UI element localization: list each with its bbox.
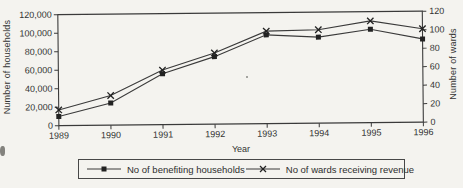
svg-text:1990: 1990 — [101, 130, 121, 140]
plot-area: 020,00040,00060,00080,000100,000120,0000… — [0, 0, 463, 158]
scan-speck — [246, 76, 248, 78]
svg-text:80,000: 80,000 — [25, 47, 53, 57]
svg-text:1996: 1996 — [413, 127, 433, 137]
svg-text:40,000: 40,000 — [25, 84, 53, 94]
svg-text:20,000: 20,000 — [25, 102, 53, 112]
svg-text:1994: 1994 — [309, 128, 329, 138]
svg-text:1992: 1992 — [205, 129, 225, 139]
svg-text:1989: 1989 — [49, 131, 69, 141]
legend-item-wards: No of wards receiving revenue — [245, 164, 414, 175]
svg-text:40: 40 — [430, 80, 440, 90]
svg-text:100: 100 — [429, 24, 444, 34]
svg-text:1991: 1991 — [153, 130, 173, 140]
left-axis-title: Number of households — [2, 20, 12, 115]
legend-label-wards: No of wards receiving revenue — [286, 164, 414, 175]
x-marker-icon — [245, 164, 281, 174]
right-axis-title: Number of wards — [448, 28, 458, 100]
svg-text:1995: 1995 — [361, 128, 381, 138]
chart-legend: No of benefiting households No of wards … — [78, 159, 405, 179]
x-axis-title: Year — [232, 144, 250, 154]
svg-text:20: 20 — [430, 98, 440, 108]
legend-label-households: No of benefiting households — [127, 164, 245, 175]
svg-text:60: 60 — [430, 61, 440, 71]
scan-artifact — [0, 146, 5, 156]
filled-square-marker-icon — [86, 164, 122, 174]
chart-figure: 020,00040,00060,00080,000100,000120,0000… — [0, 0, 463, 188]
svg-text:100,000: 100,000 — [19, 28, 52, 38]
svg-text:80: 80 — [430, 43, 440, 53]
svg-text:0: 0 — [48, 121, 53, 131]
svg-text:120: 120 — [429, 6, 444, 16]
legend-item-households: No of benefiting households — [86, 164, 245, 175]
svg-text:60,000: 60,000 — [25, 65, 53, 75]
svg-text:0: 0 — [430, 117, 435, 127]
svg-text:1993: 1993 — [257, 129, 277, 139]
svg-text:120,000: 120,000 — [19, 10, 52, 20]
